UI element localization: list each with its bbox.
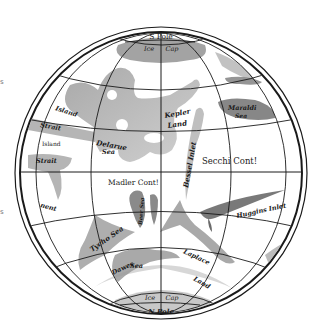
island-mid-label: Island [42, 140, 61, 147]
delarue-sea-label-2: Sea [102, 148, 115, 156]
ice-cap-top-left: Ice [143, 45, 154, 53]
dawes-ocean-label-2: Sea [130, 262, 143, 270]
secchi-cont-label: Secchi Cont! [202, 156, 257, 166]
mars-map: S Pole N Pole Ice Cap Ice Cap Island Str… [0, 0, 316, 333]
ice-cap-bottom-left: Ice [144, 294, 155, 302]
nent-label: nent [39, 201, 57, 213]
maraldi-sea-label-1: Maraldi [227, 104, 257, 112]
beer-sea-label: Beer Sea [137, 197, 145, 226]
south-pole-label: S Pole [149, 32, 173, 41]
bessel-inlet-label: Bessel Inlet [181, 140, 198, 189]
madler-cont-label: Madler Cont! [108, 178, 159, 187]
maraldi-sea-label-2: Sea [235, 112, 247, 119]
kepler-land-label-2: Land [166, 118, 188, 130]
ice-cap-bottom-right: Cap [165, 294, 179, 302]
ice-cap-top-right: Cap [165, 45, 179, 53]
strait-lower-label: Strait [36, 157, 57, 165]
north-pole-label: N Pole [147, 307, 174, 316]
